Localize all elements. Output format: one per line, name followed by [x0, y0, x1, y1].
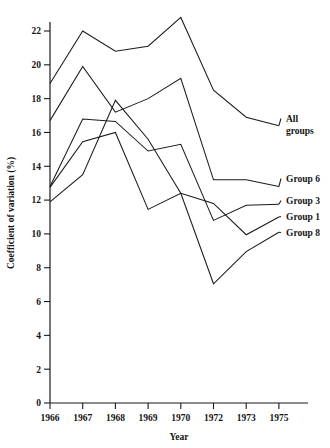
y-tick-label: 0: [36, 398, 41, 408]
legend-leader-group-1: [279, 217, 281, 218]
x-tick-label: 1969: [139, 413, 158, 423]
y-tick-label: 2: [36, 365, 41, 375]
y-tick-label: 10: [32, 229, 42, 239]
x-tick-label: 1968: [106, 413, 125, 423]
x-tick-label: 1966: [41, 413, 60, 423]
legend-label-group-1: Group 1: [286, 212, 320, 222]
y-tick-label: 16: [32, 128, 42, 138]
x-axis-ticks: 19661967196819691970197219731975: [41, 403, 289, 423]
y-tick-label: 8: [36, 263, 41, 273]
x-tick-label: 1973: [237, 413, 256, 423]
series-lines: [50, 17, 279, 283]
x-tick-label: 1970: [171, 413, 190, 423]
y-axis-title: Coefficient of variation (%): [6, 157, 17, 269]
legend: AllgroupsGroup 6Group 3Group 1Group 8: [279, 114, 320, 238]
y-tick-label: 18: [32, 94, 42, 104]
legend-label-all-groups-line2: groups: [286, 126, 314, 136]
series-line-group-3: [50, 119, 279, 220]
series-line-group-6: [50, 67, 279, 187]
legend-label-all-groups: All: [286, 114, 299, 124]
y-tick-label: 14: [32, 162, 42, 172]
x-tick-label: 1967: [73, 413, 92, 423]
legend-leader-group-6: [279, 179, 281, 187]
y-tick-label: 4: [36, 331, 41, 341]
line-chart: 0246810121416182022 19661967196819691970…: [0, 0, 330, 448]
y-axis-ticks: 0246810121416182022: [32, 26, 51, 408]
chart-figure: 0246810121416182022 19661967196819691970…: [0, 0, 330, 448]
legend-label-group-8: Group 8: [286, 228, 320, 238]
y-tick-label: 20: [32, 60, 42, 70]
y-tick-label: 6: [36, 297, 41, 307]
x-tick-label: 1972: [204, 413, 223, 423]
legend-label-group-6: Group 6: [286, 174, 320, 184]
legend-leader-group-3: [279, 201, 281, 205]
series-line-all-groups: [50, 17, 279, 125]
x-axis-title: Year: [170, 432, 190, 442]
y-tick-label: 22: [32, 26, 42, 36]
legend-label-group-3: Group 3: [286, 196, 320, 206]
y-tick-label: 12: [32, 195, 42, 205]
x-tick-label: 1975: [269, 413, 288, 423]
legend-leader-all-groups: [279, 119, 281, 126]
series-line-group-8: [50, 100, 279, 283]
